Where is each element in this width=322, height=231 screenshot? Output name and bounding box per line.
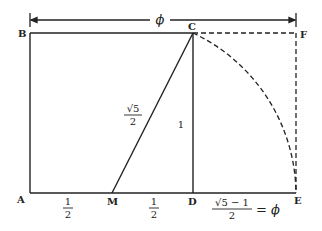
fraction-MC: √5 2 — [124, 103, 142, 127]
point-label-C: C — [188, 21, 196, 32]
fraction-MD-denominator: 2 — [151, 209, 157, 220]
fraction-AM-denominator: 2 — [65, 209, 71, 220]
label-DE-equals-phi: = ϕ — [256, 202, 280, 217]
fraction-DE-numerator: √5 − 1 — [215, 197, 249, 208]
segment-MC — [112, 33, 193, 193]
point-label-F: F — [300, 29, 307, 40]
fraction-MD: 1 2 — [149, 196, 159, 220]
dashed-arc-CE — [193, 33, 296, 193]
point-label-E: E — [294, 195, 302, 206]
point-label-B: B — [18, 28, 26, 39]
point-label-D: D — [188, 196, 197, 207]
fraction-AM: 1 2 — [63, 196, 73, 220]
arrowhead-left-icon — [31, 18, 37, 23]
fraction-MC-numerator: √5 — [127, 103, 140, 114]
point-label-A: A — [16, 194, 25, 205]
fraction-MC-denominator: 2 — [130, 116, 136, 127]
fraction-MD-numerator: 1 — [151, 196, 157, 207]
arrowhead-right-icon — [289, 18, 295, 23]
fraction-DE-denominator: 2 — [229, 210, 235, 221]
label-CD: 1 — [178, 119, 184, 130]
fraction-DE: √5 − 1 2 = ϕ — [212, 197, 280, 221]
point-label-M: M — [107, 196, 118, 207]
fraction-AM-numerator: 1 — [65, 196, 71, 207]
golden-rectangle-diagram: ϕ B C F A M D E 1 2 1 2 √5 2 1 √5 − — [0, 0, 322, 231]
phi-dimension-label: ϕ — [156, 12, 165, 27]
